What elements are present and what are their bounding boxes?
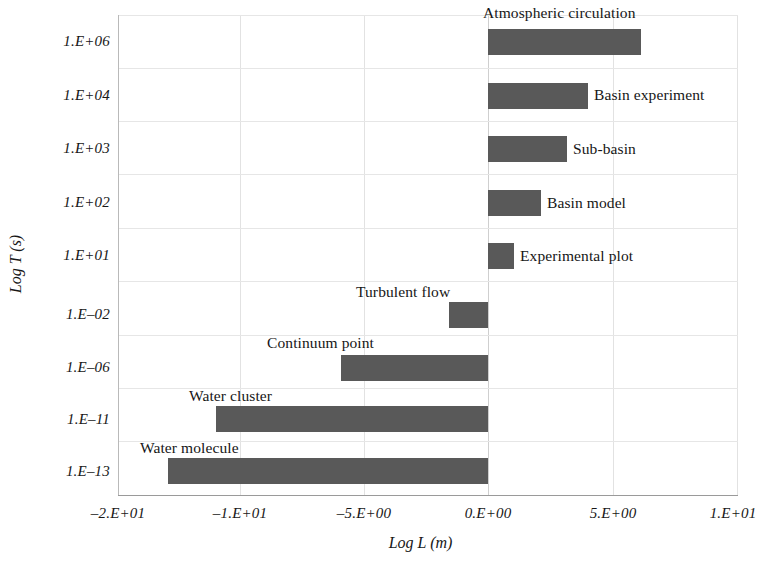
y-tick-label-1E01: 1.E+01 [63,247,110,264]
y-tick-label-1E03: 1.E+03 [63,140,110,157]
y-tick-label-1E-02: 1.E–02 [66,306,110,323]
x-tick-label-1E01: 1.E+01 [710,505,757,522]
x-axis-line [118,495,738,496]
y-tick-label-1E06: 1.E+06 [63,33,110,50]
x-tick-label-5E00: 5.E+00 [590,505,637,522]
y-tick-label-1E-06: 1.E–06 [66,359,110,376]
x-tick-label--2E01: –2.E+01 [91,505,145,522]
bar-label-atmospheric-circulation: Atmospheric circulation [483,4,636,22]
bar-water-molecule[interactable] [168,458,488,484]
x-axis-title: Log L (m) [0,534,771,552]
y-tick-label-1E-13: 1.E–13 [66,463,110,480]
bar-label-sub-basin: Sub-basin [573,140,636,158]
bar-label-turbulent-flow: Turbulent flow [356,283,450,301]
bar-experimental-plot[interactable] [488,243,514,269]
y-axis-title: Log T (s) [7,204,25,324]
bar-label-experimental-plot: Experimental plot [520,247,633,265]
bar-label-continuum-point: Continuum point [267,334,374,352]
bar-basin-experiment[interactable] [488,83,588,109]
chart-container: Atmospheric circulation Basin experiment… [0,0,771,572]
y-tick-label-1E-11: 1.E–11 [67,411,110,428]
bar-water-cluster[interactable] [216,406,488,432]
bar-basin-model[interactable] [488,190,541,216]
y-tick-label-1E02: 1.E+02 [63,194,110,211]
bar-continuum-point[interactable] [341,355,488,381]
x-axis-title-text: Log L (m) [389,534,453,552]
bar-label-basin-experiment: Basin experiment [594,86,705,104]
bar-label-water-cluster: Water cluster [189,387,272,405]
bar-label-basin-model: Basin model [547,194,626,212]
bar-sub-basin[interactable] [488,136,567,162]
bar-turbulent-flow[interactable] [449,302,488,328]
x-tick-label--5E00: –5.E+00 [337,505,391,522]
x-tick-label--1E01: –1.E+01 [213,505,267,522]
y-tick-label-1E04: 1.E+04 [63,87,110,104]
bar-atmospheric-circulation[interactable] [488,29,641,55]
bar-label-water-molecule: Water molecule [140,439,239,457]
x-tick-label-0E00: 0.E+00 [465,505,512,522]
